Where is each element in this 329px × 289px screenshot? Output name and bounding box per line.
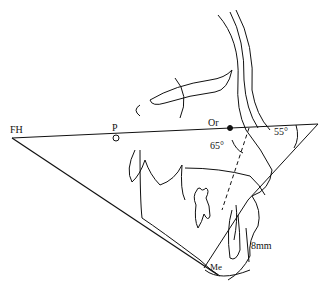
fh-plane-line <box>12 124 318 138</box>
angle-55-label: 55° <box>274 126 288 137</box>
lower-incisor <box>228 210 240 259</box>
ramus <box>129 150 185 200</box>
angle-arc-55 <box>294 125 298 148</box>
nasal-bone <box>236 10 270 130</box>
ear-rod <box>136 105 140 116</box>
angle-65-label: 65° <box>210 140 224 151</box>
cephalometric-diagram: FH P Or 65° 55° 8mm Me <box>0 0 329 289</box>
8mm-measure-line <box>246 228 249 262</box>
mandibular-plane-line <box>12 138 218 275</box>
or-label: Or <box>208 117 219 128</box>
cranial-base <box>150 70 232 104</box>
upper-incisor <box>234 205 237 240</box>
p-point <box>113 135 119 141</box>
tracing-lines <box>0 0 329 289</box>
or-point <box>228 126 233 131</box>
molar-tooth <box>194 188 210 228</box>
fh-label: FH <box>10 124 23 135</box>
frontal-bone <box>230 12 258 128</box>
me-label: Me <box>210 262 222 272</box>
facial-line-lower <box>204 200 248 268</box>
maxilla <box>185 168 265 195</box>
p-label: P <box>112 122 118 133</box>
or-dashed-line <box>222 128 249 210</box>
8mm-label: 8mm <box>251 240 272 251</box>
